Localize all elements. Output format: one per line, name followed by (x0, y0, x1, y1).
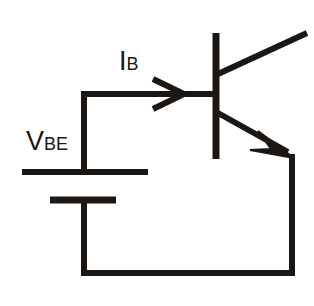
wire-group (81, 91, 295, 276)
ib-subscript: B (127, 54, 139, 74)
ib-symbol: I (119, 46, 127, 76)
vbe-symbol: V (26, 126, 44, 156)
voltage-source-label: VBE (26, 128, 68, 155)
base-current-label: IB (119, 48, 139, 75)
vbe-subscript: BE (44, 134, 68, 154)
transistor-collector-lead (218, 33, 307, 74)
circuit-diagram: VBE IB (0, 0, 314, 306)
battery-symbol (22, 172, 148, 200)
npn-transistor-symbol (216, 33, 307, 159)
